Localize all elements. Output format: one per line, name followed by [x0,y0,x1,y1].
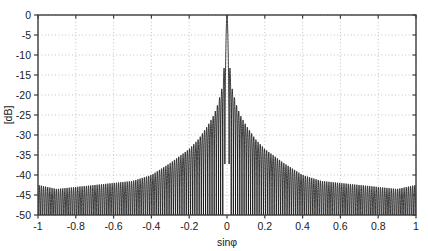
x-tick-label: -0.8 [67,220,85,232]
y-tick-label: -45 [16,189,31,201]
x-tick-label: 0.6 [333,220,348,232]
y-tick-label: -15 [16,69,31,81]
beam-pattern-chart: -1-0.8-0.6-0.4-0.200.20.40.60.81 0-5-10-… [0,0,428,251]
y-tick-label: -20 [16,89,31,101]
y-tick-label: -40 [16,169,31,181]
x-tick-label: -0.4 [142,220,160,232]
y-axis-title: [dB] [2,106,14,125]
y-tick-label: -30 [16,129,31,141]
y-tick-label: -25 [16,109,31,121]
x-axis-title: sinφ [217,236,237,248]
x-tick-label: 1 [413,220,419,232]
y-tick-label: -50 [16,209,31,221]
y-tick-label: 0 [25,9,31,21]
x-tick-label: 0 [224,220,230,232]
x-tick-label: -0.2 [180,220,198,232]
x-tick-label: 0.8 [371,220,386,232]
x-tick-label: -0.6 [105,220,123,232]
x-tick-label: 0.2 [257,220,272,232]
x-tick-label: 0.4 [295,220,310,232]
y-tick-label: -5 [22,29,31,41]
figure-canvas: -1-0.8-0.6-0.4-0.200.20.40.60.81 0-5-10-… [0,0,428,251]
x-tick-label: -1 [33,220,42,232]
y-tick-label: -35 [16,149,31,161]
y-tick-label: -10 [16,49,31,61]
